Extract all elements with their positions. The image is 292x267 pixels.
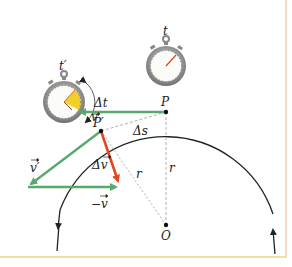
arc-right-arrow bbox=[273, 230, 275, 254]
label-r-right: r bbox=[169, 161, 176, 175]
label-minus-v: −v bbox=[91, 197, 108, 211]
label-delta-s: Δs bbox=[132, 124, 148, 138]
arc-left-tail bbox=[57, 225, 59, 251]
stopwatch-t-prime-icon bbox=[43, 71, 85, 123]
circular-motion-diagram: t′ Δt t v P P′ Δs v′ Δv −v r r O bbox=[0, 0, 292, 267]
label-delta-t: Δt bbox=[93, 96, 108, 110]
label-P: P bbox=[160, 95, 170, 109]
label-delta-v: Δv bbox=[91, 158, 108, 172]
label-t-prime: t′ bbox=[59, 59, 67, 73]
label-t: t bbox=[163, 24, 168, 38]
radius-P-prime-O bbox=[101, 131, 166, 225]
point-O bbox=[164, 223, 168, 227]
point-P bbox=[164, 110, 168, 114]
label-r-left: r bbox=[136, 167, 143, 181]
vector-v-prime bbox=[31, 131, 101, 184]
label-v-prime: v′ bbox=[30, 161, 40, 175]
label-O: O bbox=[161, 229, 171, 243]
label-P-prime: P′ bbox=[92, 116, 104, 130]
stopwatch-t-icon bbox=[146, 36, 186, 86]
